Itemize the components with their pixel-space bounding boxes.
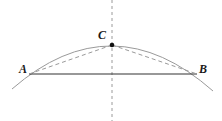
label-b: B [198, 62, 207, 76]
point-c-dot [110, 43, 115, 48]
arc-midpoint-diagram: A B C [0, 0, 222, 121]
label-a: A [18, 62, 27, 76]
segment-ac [29, 45, 112, 74]
label-c: C [98, 28, 107, 42]
